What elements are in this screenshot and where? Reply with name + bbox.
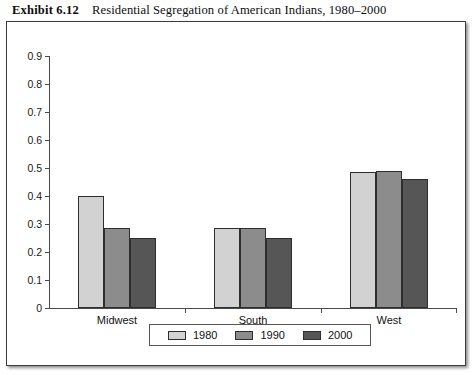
legend-swatch-1980 [168, 331, 186, 340]
x-category-label-west: West [377, 314, 402, 326]
y-tick-label: 0 [36, 302, 42, 314]
x-axis-line [49, 308, 457, 309]
y-tick-label: 0.7 [27, 106, 42, 118]
legend-swatch-1990 [235, 331, 253, 340]
bar-midwest-1980 [78, 196, 104, 308]
exhibit-caption: Exhibit 6.12 Residential Segregation of … [0, 0, 473, 21]
y-tick [45, 224, 49, 225]
legend-item-1980: 1980 [168, 329, 217, 341]
y-tick-label: 0.1 [27, 274, 42, 286]
exhibit-figure: Exhibit 6.12 Residential Segregation of … [0, 0, 473, 375]
y-tick-label: 0.5 [27, 162, 42, 174]
y-tick [45, 168, 49, 169]
bar-south-2000 [266, 238, 292, 308]
x-tick [321, 308, 322, 313]
y-tick-label: 0.8 [27, 78, 42, 90]
y-tick [45, 308, 49, 309]
x-tick [185, 308, 186, 313]
chart-legend: 198019902000 [149, 324, 371, 346]
y-tick [45, 196, 49, 197]
y-tick [45, 84, 49, 85]
x-category-label-midwest: Midwest [97, 314, 137, 326]
y-tick-label: 0.9 [27, 50, 42, 62]
legend-swatch-2000 [303, 331, 321, 340]
legend-label-2000: 2000 [328, 329, 352, 341]
exhibit-title: Residential Segregation of American Indi… [92, 3, 386, 18]
bar-west-2000 [402, 179, 428, 308]
bar-west-1990 [376, 171, 402, 308]
legend-label-1990: 1990 [260, 329, 284, 341]
chart-frame: 00.10.20.30.40.50.60.70.80.9 MidwestSout… [6, 21, 466, 366]
bar-south-1990 [240, 228, 266, 308]
y-tick-label: 0.3 [27, 218, 42, 230]
y-tick-label: 0.4 [27, 190, 42, 202]
bar-midwest-2000 [130, 238, 156, 308]
plot-area: 00.10.20.30.40.50.60.70.80.9 MidwestSout… [49, 56, 457, 309]
legend-item-2000: 2000 [303, 329, 352, 341]
x-tick [456, 308, 457, 313]
y-axis-line [49, 56, 50, 309]
y-tick [45, 252, 49, 253]
y-tick [45, 56, 49, 57]
bar-west-1980 [350, 172, 376, 308]
exhibit-number: Exhibit 6.12 [12, 3, 79, 18]
legend-item-1990: 1990 [235, 329, 284, 341]
y-tick [45, 140, 49, 141]
bar-midwest-1990 [104, 228, 130, 308]
y-tick [45, 112, 49, 113]
bar-south-1980 [214, 228, 240, 308]
y-tick [45, 280, 49, 281]
y-tick-label: 0.2 [27, 246, 42, 258]
legend-label-1980: 1980 [193, 329, 217, 341]
y-tick-label: 0.6 [27, 134, 42, 146]
